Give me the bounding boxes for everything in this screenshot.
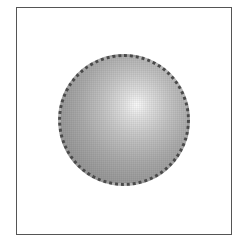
shaded-sphere [58,54,190,186]
sphere-container [58,54,190,186]
